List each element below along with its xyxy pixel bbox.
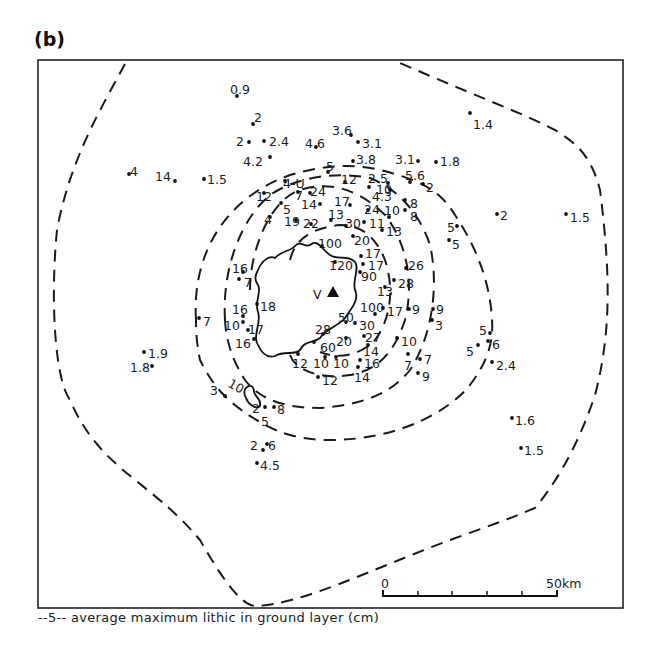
sample-point-label: 22 (303, 216, 319, 231)
sample-point-label: 90 (361, 269, 377, 284)
sample-point-label: 2 (252, 401, 260, 416)
sample-point-dot (361, 262, 365, 266)
sample-point-label: 20 (336, 334, 352, 349)
sample-point-dot (358, 358, 362, 362)
sample-point-label: 10 (333, 356, 349, 371)
scale-end-label: 50km (546, 576, 581, 591)
sample-point-label: 16 (235, 336, 251, 351)
sample-point-label: 5 (479, 323, 487, 338)
sample-point-dot (392, 278, 396, 282)
sample-point-dot (519, 446, 523, 450)
sample-point-label: 60 (320, 340, 336, 355)
sample-point-dot (430, 318, 434, 322)
sample-point-label: 1.9 (148, 346, 168, 361)
sample-point-label: 100 (318, 236, 342, 251)
sample-point-label: 2 (236, 134, 244, 149)
sample-point-label: 17 (248, 322, 264, 337)
sample-point-dot (380, 228, 384, 232)
volcano-label: V (313, 287, 322, 302)
sample-point-label: 12 (341, 172, 357, 187)
sample-point-label: 4 (130, 164, 138, 179)
sample-point-label: 4.6 (305, 136, 325, 151)
sample-point-label: 12 (292, 356, 308, 371)
sample-point-label: 1.4 (473, 117, 493, 132)
sample-point-label: 30 (345, 216, 361, 231)
sample-point-label: 3.1 (362, 136, 382, 151)
sample-point-dot (407, 307, 411, 311)
sample-points: 0.9222.44.24.63.63.13.83.11.81.44141.551… (127, 82, 590, 473)
sample-point-dot (237, 277, 241, 281)
sample-point-dot (351, 159, 355, 163)
sample-point-label: 5 (447, 220, 455, 235)
sample-point-label: 14 (301, 197, 317, 212)
sample-point-label: 19 (284, 214, 300, 229)
vent-triangle-icon (327, 286, 339, 297)
sample-point-dot (261, 448, 265, 452)
sample-point-dot (416, 371, 420, 375)
sample-point-dot (416, 159, 420, 163)
sample-point-label: 2 (500, 208, 508, 223)
sample-point-dot (202, 177, 206, 181)
sample-point-dot (247, 140, 251, 144)
sample-point-label: 4.2 (243, 154, 263, 169)
sample-point-label: 3 (435, 318, 443, 333)
sample-point-label: 6 (268, 438, 276, 453)
sample-point-label: 7 (203, 314, 211, 329)
sample-point-dot (495, 212, 499, 216)
sample-point-label: 1.8 (130, 360, 150, 375)
sample-point-dot (421, 182, 425, 186)
sample-point-label: 2 (426, 180, 434, 195)
sample-point-label: 9 (412, 302, 420, 317)
sample-point-label: 7 (244, 275, 252, 290)
sample-point-label: 5 (326, 159, 334, 174)
sample-point-dot (268, 155, 272, 159)
sample-point-label: 1.5 (570, 210, 590, 225)
sample-point-dot (252, 337, 256, 341)
sample-point-label: 2.4 (496, 358, 516, 373)
sample-point-label: 0.9 (230, 82, 250, 97)
sample-point-dot (476, 343, 480, 347)
sample-point-label: 9 (422, 369, 430, 384)
sample-point-label: 5.6 (405, 168, 425, 183)
sample-point-dot (318, 202, 322, 206)
sample-point-dot (486, 339, 490, 343)
sample-point-label: 28 (315, 322, 331, 337)
sample-point-dot (395, 336, 399, 340)
isopleth-label-5: 5 (261, 414, 269, 429)
sample-point-dot (564, 212, 568, 216)
sample-point-dot (223, 394, 227, 398)
sample-point-label: 5 (466, 344, 474, 359)
sample-point-dot (406, 352, 410, 356)
sample-point-dot (241, 320, 245, 324)
sample-point-label: 2 (254, 110, 262, 125)
scale-bar: 0 50km (381, 576, 581, 597)
sample-point-dot (455, 224, 459, 228)
sample-point-dot (356, 365, 360, 369)
sample-point-label: 1.5 (524, 443, 544, 458)
sample-point-label: 120 (329, 258, 353, 273)
sample-point-dot (312, 340, 316, 344)
sample-point-dot (362, 220, 366, 224)
sample-point-label: 1.8 (440, 154, 460, 169)
sample-point-label: 1.5 (207, 172, 227, 187)
sample-point-label: 16 (232, 302, 248, 317)
scale-start-label: 0 (381, 576, 389, 591)
sample-point-dot (255, 461, 259, 465)
sample-point-label: 5 (452, 237, 460, 252)
sample-point-label: 26 (408, 258, 424, 273)
sample-point-dot (431, 307, 435, 311)
sample-point-dot (447, 238, 451, 242)
sample-point-label: 3.1 (395, 152, 415, 167)
sample-point-label: 3.8 (356, 152, 376, 167)
sample-point-label: 10 (224, 318, 240, 333)
sample-point-label: 8 (410, 209, 418, 224)
sample-point-label: 18 (260, 299, 276, 314)
sample-point-dot (510, 416, 514, 420)
sample-point-label: 13 (328, 207, 344, 222)
sample-point-label: 2.4 (269, 134, 289, 149)
sample-point-label: 4.5 (260, 458, 280, 473)
sample-point-label: 10 (401, 334, 417, 349)
sample-point-dot (173, 179, 177, 183)
sample-point-dot (381, 306, 385, 310)
sample-point-label: 10 (313, 356, 329, 371)
